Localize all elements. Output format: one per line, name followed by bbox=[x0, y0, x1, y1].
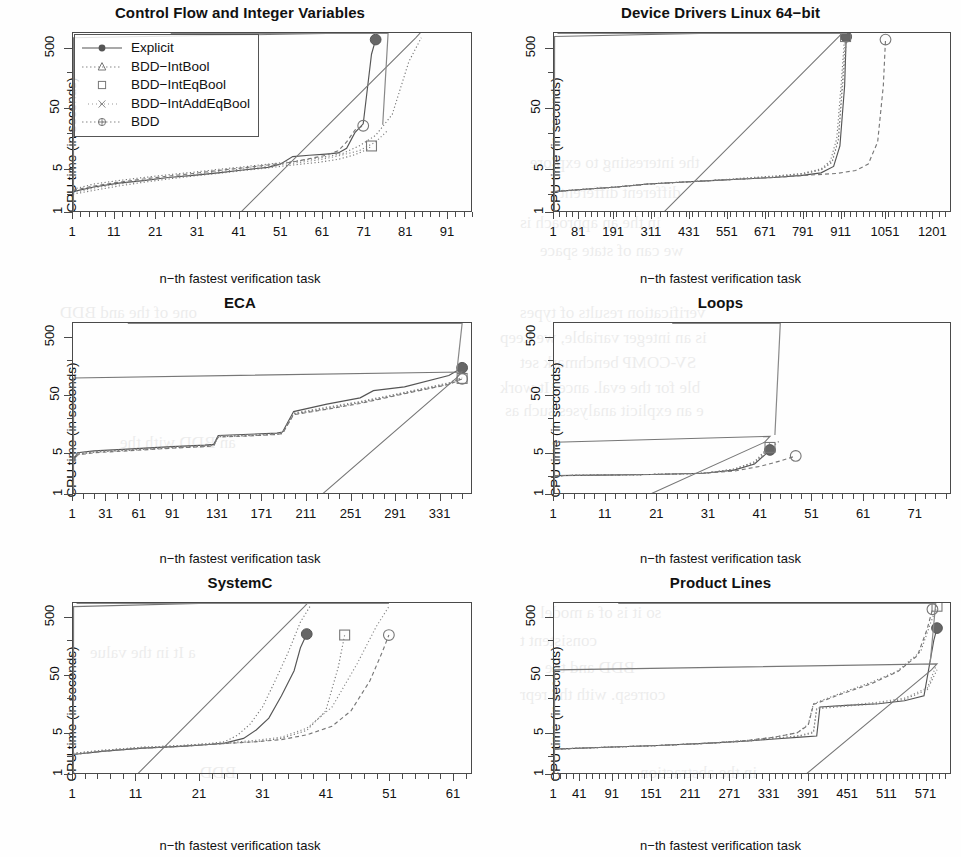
y-tick-label: 1 bbox=[535, 203, 542, 218]
x-tick-minor bbox=[89, 212, 90, 217]
x-tick-minor bbox=[642, 212, 643, 217]
x-tick-label: 331 bbox=[758, 786, 780, 801]
series-line bbox=[554, 36, 847, 191]
x-tick-minor bbox=[869, 212, 870, 217]
x-tick-minor bbox=[888, 212, 889, 217]
x-tick-minor bbox=[821, 774, 822, 779]
endpoint-marker-filled-circle bbox=[301, 629, 312, 640]
y-tick bbox=[545, 212, 553, 213]
x-tick bbox=[926, 774, 927, 781]
legend-marker-square-icon bbox=[80, 78, 124, 92]
x-tick-minor bbox=[717, 212, 718, 217]
x-tick-minor bbox=[842, 494, 843, 499]
x-tick-minor bbox=[841, 774, 842, 779]
y-tick-label: 50 bbox=[528, 386, 542, 401]
x-tick-minor bbox=[736, 774, 737, 779]
x-tick bbox=[765, 212, 766, 219]
x-tick-minor bbox=[873, 494, 874, 499]
x-tick-label: 31 bbox=[190, 224, 204, 239]
x-tick-minor bbox=[139, 212, 140, 217]
x-tick-minor bbox=[623, 212, 624, 217]
y-tick-text: 500 bbox=[43, 325, 58, 347]
x-tick-minor bbox=[389, 212, 390, 217]
y-tick-text: 5 bbox=[50, 164, 65, 171]
x-tick-minor bbox=[946, 494, 947, 499]
x-tick-minor bbox=[686, 212, 687, 217]
x-tick-minor bbox=[893, 774, 894, 779]
x-tick-minor bbox=[856, 212, 857, 217]
x-tick-minor bbox=[814, 774, 815, 779]
x-tick-minor bbox=[854, 774, 855, 779]
x-tick-minor bbox=[559, 212, 560, 217]
legend-item[interactable]: BDD−IntEqBool bbox=[80, 76, 250, 95]
x-tick bbox=[579, 774, 580, 781]
legend-item[interactable]: BDD−IntAddEqBool bbox=[80, 95, 250, 114]
x-tick-minor bbox=[880, 774, 881, 779]
x-axis-label: n−th fastest verification task bbox=[480, 271, 961, 286]
x-tick-minor bbox=[464, 212, 465, 217]
y-tick-label: 1 bbox=[54, 203, 61, 218]
x-tick-minor bbox=[787, 212, 788, 217]
y-tick-text: 500 bbox=[43, 35, 58, 57]
legend-item[interactable]: Explicit bbox=[80, 39, 250, 58]
x-tick-minor bbox=[122, 212, 123, 217]
x-tick bbox=[306, 494, 307, 501]
x-tick bbox=[656, 494, 657, 501]
x-tick-label: 71 bbox=[356, 224, 370, 239]
x-tick-minor bbox=[625, 494, 626, 499]
x-tick bbox=[760, 494, 761, 501]
legend-marker-triangle-icon bbox=[80, 60, 124, 74]
x-tick-minor bbox=[572, 212, 573, 217]
y-tick bbox=[545, 337, 553, 338]
endpoint-marker-filled-circle bbox=[765, 445, 776, 456]
x-tick-label: 61 bbox=[132, 506, 146, 521]
x-tick-minor bbox=[698, 494, 699, 499]
x-tick-label: 331 bbox=[429, 506, 451, 521]
x-tick bbox=[689, 212, 690, 219]
series-line bbox=[73, 378, 462, 462]
x-tick-label: 21 bbox=[192, 786, 206, 801]
x-tick-minor bbox=[679, 212, 680, 217]
chart-panel-2: Device Drivers Linux 64−bitCPU time (in … bbox=[480, 0, 961, 290]
y-tick-text: 1 bbox=[531, 207, 546, 214]
x-tick-minor bbox=[801, 494, 802, 499]
x-tick-label: 451 bbox=[836, 786, 858, 801]
x-tick-label: 61 bbox=[315, 224, 329, 239]
x-tick-minor bbox=[629, 212, 630, 217]
x-tick bbox=[613, 212, 614, 219]
x-tick-label: 1051 bbox=[870, 224, 899, 239]
x-tick-minor bbox=[615, 494, 616, 499]
x-tick bbox=[261, 494, 262, 501]
y-tick bbox=[64, 494, 72, 495]
y-tick-label: 50 bbox=[528, 666, 542, 681]
x-tick-minor bbox=[673, 212, 674, 217]
y-tick-label: 5 bbox=[535, 160, 542, 175]
x-tick-label: 1 bbox=[549, 786, 556, 801]
x-tick-label: 151 bbox=[640, 786, 662, 801]
chart-panel-1: Control Flow and Integer VariablesCPU ti… bbox=[0, 0, 480, 290]
x-tick-minor bbox=[301, 774, 302, 779]
endpoint-marker-triangle bbox=[554, 32, 844, 212]
x-tick-minor bbox=[635, 212, 636, 217]
x-tick bbox=[155, 212, 156, 219]
series-line bbox=[554, 609, 932, 749]
x-tick bbox=[395, 494, 396, 501]
legend-item[interactable]: BDD bbox=[80, 113, 250, 132]
x-tick-minor bbox=[703, 774, 704, 779]
x-tick-label: 31 bbox=[98, 506, 112, 521]
x-tick-minor bbox=[894, 212, 895, 217]
y-tick-label: 500 bbox=[39, 608, 61, 623]
x-tick-minor bbox=[563, 494, 564, 499]
y-tick bbox=[64, 337, 72, 338]
x-tick-minor bbox=[230, 212, 231, 217]
x-tick bbox=[172, 494, 173, 501]
x-tick-minor bbox=[919, 774, 920, 779]
legend-item[interactable]: BDD−IntBool bbox=[80, 58, 250, 77]
y-tick-label: 5 bbox=[54, 444, 61, 459]
x-tick-minor bbox=[212, 774, 213, 779]
endpoint-marker-square bbox=[340, 630, 350, 640]
x-tick-minor bbox=[939, 212, 940, 217]
x-tick-minor bbox=[272, 212, 273, 217]
y-tick bbox=[64, 675, 72, 676]
plot-area: 1550500111213141516171 bbox=[553, 322, 951, 494]
